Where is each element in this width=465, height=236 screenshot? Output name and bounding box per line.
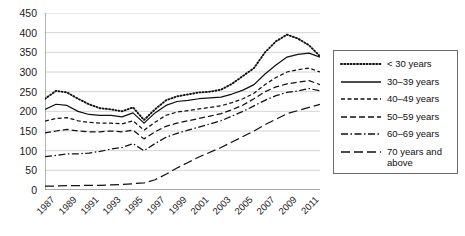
series-line [45, 104, 320, 186]
legend-line-swatch [340, 146, 382, 158]
legend-line-swatch [340, 58, 382, 70]
legend-line-swatch [340, 76, 382, 88]
y-axis: 050100150200250300350400450 [0, 0, 41, 203]
legend-item-label: < 30 years [387, 58, 432, 70]
y-tick-label: 400 [19, 28, 37, 38]
y-tick-label: 350 [19, 47, 37, 57]
legend-item-label: 60–69 years [387, 128, 439, 140]
legend-item-label: 50–59 years [387, 111, 439, 123]
x-tick-label: 1995 [122, 194, 145, 217]
x-tick-label: 1991 [78, 194, 101, 217]
x-tick-label: 2003 [210, 194, 233, 217]
y-tick-label: 250 [19, 87, 37, 97]
y-tick-label: 200 [19, 106, 37, 116]
legend-item[interactable]: 70 years and above [340, 146, 452, 172]
line-chart: 050100150200250300350400450 198719891991… [0, 0, 465, 236]
y-tick-label: 50 [25, 165, 37, 175]
x-tick-label: 1997 [144, 194, 167, 217]
legend-item[interactable]: 30–39 years [340, 76, 452, 90]
chart-legend: < 30 years30–39 years40–49 years50–59 ye… [333, 50, 458, 174]
series-line [45, 53, 320, 123]
x-tick-label: 2001 [188, 194, 211, 217]
legend-line-swatch [340, 111, 382, 123]
x-tick-label: 2007 [254, 194, 277, 217]
series-line [45, 81, 320, 139]
legend-item[interactable]: 40–49 years [340, 93, 452, 107]
legend-item[interactable]: 60–69 years [340, 128, 452, 142]
series-line [45, 68, 320, 130]
x-tick-label: 1993 [100, 194, 123, 217]
legend-item-label: 70 years and above [387, 146, 452, 169]
legend-line-swatch [340, 128, 382, 140]
y-tick-label: 150 [19, 126, 37, 136]
y-tick-label: 300 [19, 67, 37, 77]
y-tick-label: 100 [19, 146, 37, 156]
x-tick-label: 2009 [276, 194, 299, 217]
series-line [45, 35, 320, 120]
y-tick-label: 450 [19, 8, 37, 18]
x-tick-label: 2011 [299, 194, 321, 216]
y-tick-label: 0 [31, 185, 37, 195]
legend-item[interactable]: < 30 years [340, 58, 452, 72]
legend-item[interactable]: 50–59 years [340, 111, 452, 125]
series-lines [45, 13, 320, 190]
legend-item-label: 30–39 years [387, 76, 439, 88]
x-tick-label: 1999 [166, 194, 189, 217]
x-tick-label: 1989 [56, 194, 79, 217]
x-tick-label: 2005 [232, 194, 255, 217]
x-axis: 1987198919911993199519971999200120032005… [45, 194, 320, 236]
legend-item-label: 40–49 years [387, 93, 439, 105]
legend-line-swatch [340, 93, 382, 105]
plot-area [45, 13, 320, 190]
